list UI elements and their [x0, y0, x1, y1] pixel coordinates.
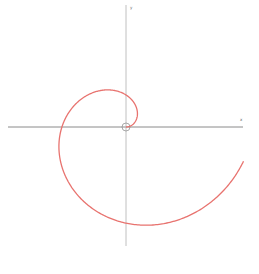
y-axis-label: y [130, 5, 133, 10]
x-axis-label: x [240, 117, 243, 122]
spiral-plot: x y [0, 0, 259, 274]
spiral-curve [59, 90, 244, 225]
